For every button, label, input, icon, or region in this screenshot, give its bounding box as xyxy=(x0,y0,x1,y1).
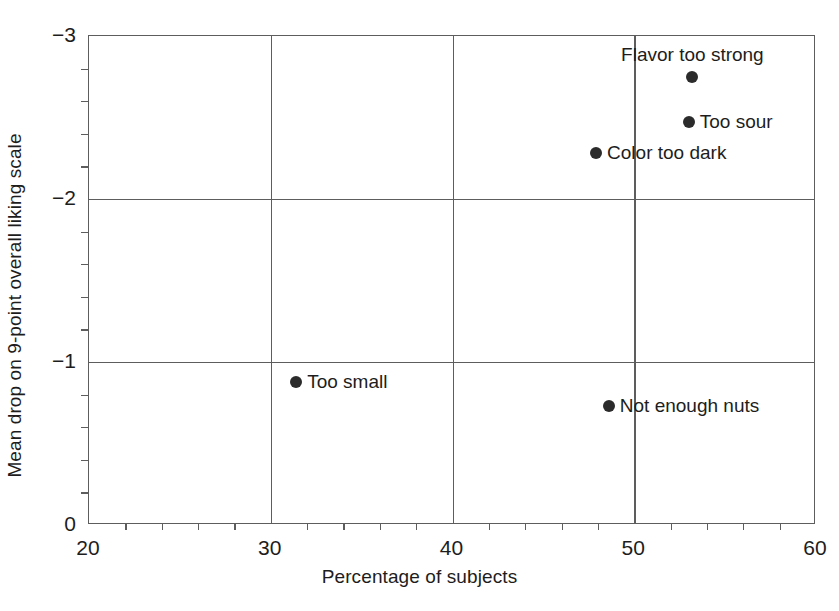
x-axis-minor-tick xyxy=(598,523,599,530)
data-point-label: Too small xyxy=(307,371,387,393)
y-axis-title: Mean drop on 9-point overall liking scal… xyxy=(0,0,30,611)
y-axis-minor-tick xyxy=(81,232,89,233)
y-axis-minor-tick xyxy=(81,329,89,330)
y-axis-minor-tick xyxy=(81,264,89,265)
x-axis-minor-tick xyxy=(307,523,308,530)
y-axis-minor-tick xyxy=(81,101,89,102)
y-axis-tick-label: 0 xyxy=(40,512,76,536)
data-point-label: Flavor too strong xyxy=(621,44,764,66)
scatter-plot-figure: Mean drop on 9-point overall liking scal… xyxy=(0,0,839,611)
x-axis-minor-tick xyxy=(671,523,672,530)
x-axis-minor-tick xyxy=(562,523,563,530)
x-axis-tick-label: 20 xyxy=(76,536,99,560)
x-axis-minor-tick xyxy=(525,523,526,530)
data-point-marker[interactable] xyxy=(686,71,698,83)
x-axis-tick-label: 60 xyxy=(803,536,826,560)
gridline-horizontal xyxy=(89,362,814,363)
x-axis-minor-tick xyxy=(380,523,381,530)
data-point-label: Color too dark xyxy=(607,142,726,164)
x-axis-tick-label: 40 xyxy=(440,536,463,560)
x-axis-minor-tick xyxy=(416,523,417,530)
x-axis-minor-tick xyxy=(780,523,781,530)
y-axis-minor-tick xyxy=(81,297,89,298)
y-axis-minor-tick xyxy=(81,69,89,70)
x-axis-tick-label: 50 xyxy=(622,536,645,560)
x-axis-minor-tick xyxy=(198,523,199,530)
x-axis-minor-tick xyxy=(707,523,708,530)
x-axis-minor-tick xyxy=(234,523,235,530)
gridline-horizontal xyxy=(89,199,814,200)
gridline-vertical xyxy=(634,36,635,523)
y-axis-minor-tick xyxy=(81,492,89,493)
x-axis-tick-label: 30 xyxy=(258,536,281,560)
data-point-label: Too sour xyxy=(700,111,773,133)
data-point-marker[interactable] xyxy=(590,147,602,159)
y-axis-minor-tick xyxy=(81,427,89,428)
gridline-vertical xyxy=(453,36,454,523)
y-axis-tick-label: −2 xyxy=(40,186,76,210)
x-axis-minor-tick xyxy=(125,523,126,530)
x-axis-minor-tick xyxy=(743,523,744,530)
x-axis-minor-tick xyxy=(489,523,490,530)
y-axis-minor-tick xyxy=(81,134,89,135)
x-axis-title: Percentage of subjects xyxy=(0,566,839,588)
y-axis-tick-label: −1 xyxy=(40,349,76,373)
gridline-vertical xyxy=(271,36,272,523)
data-point-marker[interactable] xyxy=(290,376,302,388)
data-point-marker[interactable] xyxy=(603,400,615,412)
x-axis-minor-tick xyxy=(343,523,344,530)
data-point-marker[interactable] xyxy=(683,116,695,128)
data-point-label: Not enough nuts xyxy=(620,395,759,417)
plot-area: Flavor too strongToo sourColor too darkT… xyxy=(88,35,815,524)
y-axis-minor-tick xyxy=(81,460,89,461)
y-axis-minor-tick xyxy=(81,166,89,167)
x-axis-minor-tick xyxy=(162,523,163,530)
y-axis-minor-tick xyxy=(81,395,89,396)
y-axis-tick-label: −3 xyxy=(40,23,76,47)
